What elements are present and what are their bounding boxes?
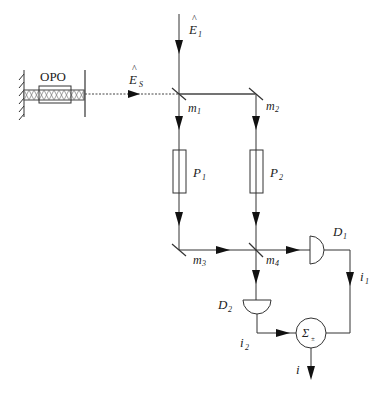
detector-d1-label: D 1 bbox=[332, 224, 347, 241]
svg-text:m: m bbox=[266, 253, 275, 267]
detector-d2-label: D 2 bbox=[217, 297, 232, 314]
svg-text:^: ^ bbox=[192, 13, 197, 24]
svg-text:i: i bbox=[360, 269, 364, 284]
current-i2-label: i 2 bbox=[240, 335, 249, 352]
mirror-m2-label: m 2 bbox=[266, 99, 279, 114]
svg-text:1: 1 bbox=[365, 277, 369, 286]
arrow-icon bbox=[286, 246, 300, 254]
svg-text:^: ^ bbox=[132, 63, 137, 74]
svg-text:P: P bbox=[192, 165, 201, 180]
svg-text:m: m bbox=[266, 99, 275, 113]
svg-text:D: D bbox=[217, 297, 228, 312]
svg-text:Σ: Σ bbox=[301, 326, 309, 340]
current-i1-label: i 1 bbox=[360, 269, 369, 286]
arrow-icon bbox=[175, 212, 183, 226]
svg-text:3: 3 bbox=[201, 259, 206, 268]
arrow-icon bbox=[175, 40, 183, 54]
arrow-icon bbox=[346, 272, 354, 286]
summer-node bbox=[296, 318, 326, 348]
detector-d1 bbox=[310, 236, 324, 264]
optical-setup-diagram: OPO E ^ S E ^ 1 m 1 m 2 P 1 P 2 bbox=[0, 0, 386, 395]
opo-label: OPO bbox=[40, 69, 66, 84]
svg-text:D: D bbox=[332, 224, 343, 239]
svg-text:P: P bbox=[269, 165, 278, 180]
svg-text:2: 2 bbox=[275, 105, 279, 114]
output-current-label: i bbox=[296, 362, 300, 377]
phase-plate-p2-label: P 2 bbox=[269, 165, 283, 182]
arrow-icon bbox=[252, 116, 260, 130]
svg-text:1: 1 bbox=[198, 30, 202, 39]
arrow-icon bbox=[128, 90, 140, 98]
detector-d2 bbox=[243, 300, 271, 314]
svg-text:E: E bbox=[128, 72, 137, 87]
svg-text:1: 1 bbox=[202, 173, 206, 182]
svg-text:m: m bbox=[193, 253, 202, 267]
input-field-label: E ^ 1 bbox=[188, 13, 202, 39]
svg-text:2: 2 bbox=[228, 305, 232, 314]
svg-text:i: i bbox=[240, 335, 244, 350]
svg-text:2: 2 bbox=[245, 343, 249, 352]
svg-text:E: E bbox=[188, 22, 197, 37]
wall-hatch bbox=[19, 70, 24, 120]
arrow-icon bbox=[276, 329, 290, 337]
arrow-icon bbox=[252, 212, 260, 226]
mirror-m3-label: m 3 bbox=[193, 253, 206, 268]
svg-text:2: 2 bbox=[279, 173, 283, 182]
signal-field-label: E ^ S bbox=[128, 63, 143, 89]
svg-text:1: 1 bbox=[343, 232, 347, 241]
svg-text:±: ± bbox=[311, 335, 315, 343]
phase-plate-p1-label: P 1 bbox=[192, 165, 206, 182]
svg-text:S: S bbox=[139, 80, 143, 89]
mirror-m1-label: m 1 bbox=[188, 101, 201, 116]
arrow-icon bbox=[216, 246, 230, 254]
mirror-m4-label: m 4 bbox=[266, 253, 279, 268]
svg-text:4: 4 bbox=[275, 259, 279, 268]
svg-text:1: 1 bbox=[197, 107, 201, 116]
arrow-icon bbox=[175, 116, 183, 130]
arrow-icon bbox=[252, 270, 260, 284]
svg-text:m: m bbox=[188, 101, 197, 115]
arrow-icon bbox=[307, 366, 315, 380]
